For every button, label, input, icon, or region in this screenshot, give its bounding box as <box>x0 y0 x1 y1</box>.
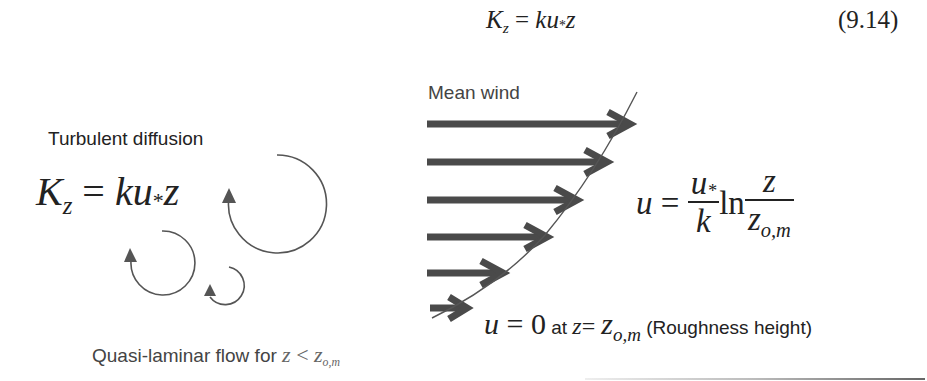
log-equals: = <box>653 185 688 221</box>
log-law-equation: u = u*klnzzo,m <box>636 164 794 242</box>
frac2-den-z: z <box>748 201 761 237</box>
frac1-num-u: u <box>691 165 708 201</box>
ql-z0: z <box>314 342 323 367</box>
large-eddy-icon <box>222 155 326 253</box>
frac1-num-star: * <box>707 181 716 201</box>
bc-z0-sub: o,m <box>613 324 641 345</box>
quasi-laminar-label: Quasi-laminar flow for z < zo,m <box>92 342 340 370</box>
ql-lt: < <box>291 342 314 367</box>
bc-eq: = <box>582 313 602 339</box>
wind-arrow-icon <box>427 150 607 174</box>
frac1-num: u* <box>688 166 720 203</box>
fraction-z-over-z0: zzo,m <box>745 164 794 242</box>
bc-z0: z <box>601 307 613 340</box>
frac2-den: zo,m <box>745 201 794 243</box>
bc-at: at <box>546 317 572 338</box>
frac1-den: k <box>688 203 720 241</box>
frac2-num: z <box>745 164 794 201</box>
small-eddy-icon <box>204 267 244 305</box>
frac2-den-sub: o,m <box>761 219 791 241</box>
bc-u: u <box>484 307 499 340</box>
bc-note: (Roughness height) <box>641 317 812 338</box>
bottom-rule <box>585 378 925 380</box>
wind-arrow-icon <box>427 112 630 136</box>
bc-eq-zero: = 0 <box>499 307 546 340</box>
wind-arrow-icon <box>427 188 577 212</box>
ql-z0-sub: o,m <box>323 356 340 369</box>
wind-arrow-icon <box>427 225 547 249</box>
ql-text: Quasi-laminar flow for <box>92 345 282 366</box>
bc-z: z <box>572 313 581 339</box>
mean-wind-label: Mean wind <box>428 82 520 104</box>
log-lhs: u <box>636 185 653 221</box>
wind-arrow-icon <box>427 261 503 285</box>
medium-eddy-icon <box>124 231 195 295</box>
wind-arrows <box>427 112 630 319</box>
boundary-condition: u = 0 at z= zo,m (Roughness height) <box>484 307 812 346</box>
log-ln: ln <box>719 185 745 221</box>
fraction-ustar-over-k: u*k <box>688 166 720 241</box>
ql-z: z <box>282 342 291 367</box>
